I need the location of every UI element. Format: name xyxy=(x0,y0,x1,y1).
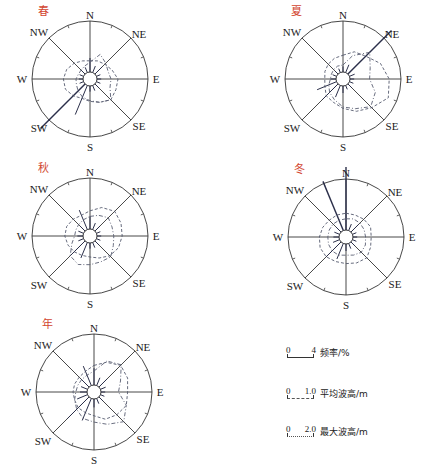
frequency-bar xyxy=(335,85,340,97)
rose-tick xyxy=(111,182,112,185)
rose-tick xyxy=(36,57,39,58)
compass-label-s: S xyxy=(91,454,97,466)
legend-solid-line xyxy=(287,354,314,358)
compass-label-sw: SW xyxy=(287,280,304,292)
rose-tick xyxy=(72,338,73,341)
wave-rose-3: NNEESESSWWNW冬 xyxy=(273,162,416,311)
rose-spoke xyxy=(351,242,387,278)
frequency-bar xyxy=(85,67,87,72)
compass-label-w: W xyxy=(270,73,281,85)
frequency-bar xyxy=(333,240,339,243)
compass-label-e: E xyxy=(409,231,416,243)
frequency-bar xyxy=(95,241,99,245)
frequency-bar xyxy=(346,85,348,89)
compass-label-e: E xyxy=(153,230,160,242)
rose-tick xyxy=(289,100,292,101)
legend-max-scale: 0 2.0 xyxy=(286,424,316,438)
frequency-bar xyxy=(352,240,356,242)
frequency-bar xyxy=(351,242,355,246)
rose-tick xyxy=(141,257,144,258)
frequency-bar xyxy=(339,69,341,73)
frequency-bar xyxy=(349,74,354,76)
rose-tick xyxy=(394,100,397,101)
frequency-bar xyxy=(346,65,349,73)
frequency-bar xyxy=(349,224,352,230)
frequency-bar xyxy=(67,397,89,419)
compass-label-n: N xyxy=(86,166,94,178)
frequency-bar xyxy=(99,397,103,401)
rose-tick xyxy=(72,443,73,446)
frequency-bar xyxy=(80,226,85,231)
rose-tick xyxy=(394,57,397,58)
frequency-bar xyxy=(96,82,100,84)
legend-mean-scale: 0 1.0 xyxy=(286,386,316,400)
compass-label-se: SE xyxy=(386,120,399,132)
compass-label-sw: SW xyxy=(284,122,301,134)
compass-label-n: N xyxy=(86,9,94,21)
compass-label-nw: NW xyxy=(34,339,53,351)
compass-label-se: SE xyxy=(133,277,146,289)
panel-title: 年 xyxy=(42,317,53,331)
frequency-bar xyxy=(93,66,96,72)
legend-label: 最大波高/m xyxy=(320,425,368,438)
compass-label-se: SE xyxy=(133,120,146,132)
frequency-bar xyxy=(99,379,107,387)
frequency-bar xyxy=(93,223,96,229)
rose-tick xyxy=(40,370,43,371)
rose-tick xyxy=(141,100,144,101)
compass-label-ne: NE xyxy=(132,28,147,40)
frequency-bar xyxy=(95,226,100,231)
rose-tick xyxy=(364,130,365,133)
compass-label-n: N xyxy=(90,322,98,334)
frequency-bar xyxy=(335,71,338,74)
rose-tick xyxy=(68,182,69,185)
compass-label-w: W xyxy=(17,230,28,242)
rose-tick xyxy=(367,183,368,186)
compass-label-w: W xyxy=(21,386,32,398)
rose-tick xyxy=(145,413,148,414)
rose-spoke xyxy=(95,195,131,231)
rose-tick xyxy=(40,413,43,414)
panel-title: 夏 xyxy=(291,5,302,18)
compass-label-s: S xyxy=(87,141,93,153)
compass-label-s: S xyxy=(340,141,346,153)
legend-label: 平均波高/m xyxy=(320,387,368,400)
frequency-bar xyxy=(78,239,83,241)
rose-hub xyxy=(87,385,101,399)
frequency-bar xyxy=(95,84,99,88)
frequency-bar xyxy=(81,387,87,390)
frequency-bar xyxy=(93,242,95,247)
frequency-bar xyxy=(96,232,100,234)
rose-tick xyxy=(68,287,69,290)
rose-hub xyxy=(83,72,97,86)
frequency-bar xyxy=(77,395,87,399)
rose-tick xyxy=(145,370,148,371)
frequency-bar xyxy=(75,85,87,114)
rose-tick xyxy=(141,57,144,58)
rose-spoke xyxy=(95,84,131,120)
rose-tick xyxy=(321,25,322,28)
compass-label-n: N xyxy=(339,9,347,21)
rose-tick xyxy=(292,215,295,216)
frequency-bar xyxy=(96,75,100,77)
compass-label-ne: NE xyxy=(388,186,403,198)
rose-tick xyxy=(36,257,39,258)
rose-tick xyxy=(141,214,144,215)
legend-dashed-line xyxy=(287,395,314,399)
compass-label-nw: NW xyxy=(30,26,49,38)
rose-hub xyxy=(83,229,97,243)
wave-rose-0: NNEESESSWWNW春 xyxy=(17,5,160,153)
rose-hub xyxy=(336,72,350,86)
rose-tick xyxy=(397,215,400,216)
legend-label: 频率/% xyxy=(320,346,350,359)
wave-rose-4: NNEESESSWWNW年 xyxy=(21,317,164,466)
frequency-bar xyxy=(93,85,95,90)
panel-title: 秋 xyxy=(38,161,49,175)
legend-max-height: 0 2.0 最大波高/m xyxy=(286,424,368,438)
compass-label-nw: NW xyxy=(286,184,305,196)
compass-label-nw: NW xyxy=(30,183,49,195)
compass-label-se: SE xyxy=(137,433,150,445)
frequency-bar xyxy=(336,227,341,232)
frequency-bar xyxy=(95,67,102,74)
rose-tick xyxy=(68,25,69,28)
